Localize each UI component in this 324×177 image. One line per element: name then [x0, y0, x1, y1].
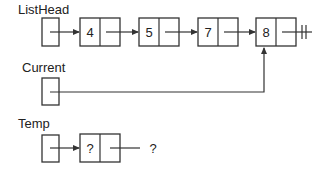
temp-pointer [42, 135, 79, 162]
linked-list-diagram: ListHead 4 5 7 8 Current [0, 0, 324, 177]
temp-node: ? ? [80, 134, 157, 162]
temp-node-value: ? [86, 141, 93, 156]
listhead-pointer [42, 18, 79, 46]
listhead-label: ListHead [18, 2, 69, 17]
node-value: 7 [204, 25, 211, 40]
current-arrow [50, 48, 264, 92]
current-pointer [42, 48, 264, 105]
temp-next-unknown: ? [149, 141, 156, 156]
current-label: Current [22, 60, 66, 75]
node-value: 5 [145, 25, 152, 40]
list-node: 5 [139, 18, 197, 46]
node-value: 8 [262, 25, 269, 40]
temp-label: Temp [18, 116, 50, 131]
list-node: 4 [80, 18, 138, 46]
node-value: 4 [86, 25, 93, 40]
list-node: 8 [256, 18, 312, 46]
list-node: 7 [198, 18, 255, 46]
